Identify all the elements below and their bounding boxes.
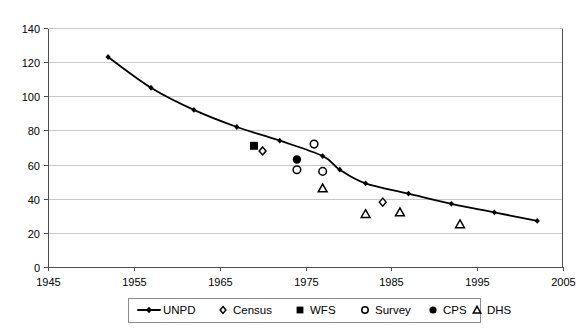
- series-wfs: [250, 142, 258, 150]
- y-tick-label: 40: [28, 194, 40, 206]
- chart-container: 020406080100120140 194519551965197519851…: [0, 0, 588, 335]
- legend-label: Survey: [375, 304, 411, 316]
- marker-filled-diamond: [191, 107, 196, 113]
- series-unpd: [105, 54, 539, 224]
- marker-filled-circle: [293, 155, 301, 163]
- marker-open-triangle: [361, 210, 370, 218]
- y-tick-label: 80: [28, 125, 40, 137]
- y-tick-label: 140: [22, 23, 40, 35]
- x-tick-label: 1965: [208, 276, 232, 288]
- marker-open-diamond: [259, 147, 266, 155]
- marker-filled-diamond: [234, 124, 239, 130]
- marker-open-circle: [319, 168, 327, 176]
- series-line-unpd: [108, 57, 537, 221]
- marker-filled-diamond: [492, 209, 497, 215]
- x-tick-label: 1975: [294, 276, 318, 288]
- legend-label: Census: [233, 304, 272, 316]
- marker-filled-diamond: [406, 191, 411, 197]
- legend-label: CPS: [443, 304, 467, 316]
- y-tick-label: 20: [28, 228, 40, 240]
- marker-open-circle: [310, 140, 318, 148]
- x-tick-label: 1955: [122, 276, 146, 288]
- marker-filled-circle: [429, 306, 436, 313]
- legend-label: WFS: [310, 304, 336, 316]
- axes-layer: [44, 29, 564, 272]
- marker-filled-diamond: [535, 218, 540, 224]
- legend-label: DHS: [487, 304, 512, 316]
- y-tick-label: 120: [22, 57, 40, 69]
- y-tick-label: 100: [22, 91, 40, 103]
- gridlines-layer: [48, 29, 563, 234]
- x-tick-label: 1995: [465, 276, 489, 288]
- marker-open-triangle: [318, 184, 327, 192]
- marker-open-triangle: [456, 220, 465, 228]
- series-layer: [105, 54, 539, 228]
- marker-filled-square: [297, 307, 304, 314]
- marker-open-circle: [293, 166, 301, 174]
- marker-filled-diamond: [363, 180, 368, 186]
- legend: UNPDCensusWFSSurveyCPSDHS: [129, 299, 512, 323]
- xtick-labels-layer: 1945195519651975198519952005: [36, 276, 575, 288]
- plot-frame: [49, 29, 563, 268]
- x-tick-label: 2005: [551, 276, 575, 288]
- x-tick-label: 1945: [36, 276, 60, 288]
- marker-filled-diamond: [449, 201, 454, 207]
- marker-filled-diamond: [320, 153, 325, 159]
- y-tick-label: 0: [34, 262, 40, 274]
- ytick-labels-layer: 020406080100120140: [22, 23, 40, 274]
- legend-label: UNPD: [163, 304, 196, 316]
- marker-open-triangle: [396, 208, 405, 216]
- x-tick-label: 1985: [379, 276, 403, 288]
- marker-filled-square: [250, 142, 258, 150]
- y-tick-label: 60: [28, 160, 40, 172]
- marker-filled-diamond: [277, 138, 282, 144]
- series-cps: [293, 155, 301, 163]
- marker-open-circle: [362, 307, 368, 313]
- chart-svg: 020406080100120140 194519551965197519851…: [0, 0, 588, 335]
